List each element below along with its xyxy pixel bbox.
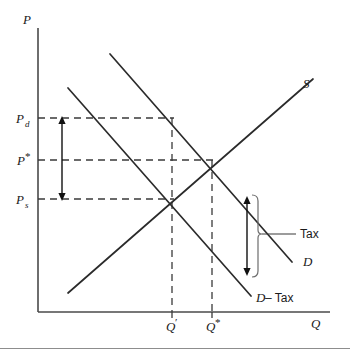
- y-tick-label-pd: P d: [15, 111, 30, 129]
- y-tick-label-pstar-star: *: [25, 150, 31, 162]
- figure-container: P Q P d P * P s Q ′ Q * S D: [0, 0, 350, 358]
- supply-demand-tax-chart: P Q P d P * P s Q ′ Q * S D: [0, 0, 350, 358]
- y-tick-label-pstar-base: P: [16, 153, 25, 168]
- y-tick-label-ps: P s: [15, 192, 29, 210]
- guide-lines-group: [38, 118, 213, 312]
- x-tick-label-qstar: Q *: [206, 316, 221, 334]
- tax-arrow-head-down: [243, 268, 250, 276]
- tax-wedge-arrow-head-down: [58, 193, 65, 201]
- demand-minus-tax-label: D – Tax: [255, 290, 293, 305]
- supply-curve[interactable]: [68, 79, 313, 293]
- x-tick-label-qstar-star: *: [215, 316, 221, 328]
- demand-minus-tax-label-rest: – Tax: [265, 291, 293, 305]
- tax-arrow-head-up: [243, 196, 250, 204]
- page-separator-rule: [0, 348, 350, 349]
- axis-ticks-group: [172, 312, 212, 318]
- x-tick-label-qprime-prime: ′: [175, 316, 177, 328]
- tax-wedge-arrow-left: [58, 116, 65, 201]
- y-axis-label: P: [22, 12, 31, 27]
- y-tick-label-pd-base: P: [15, 111, 24, 126]
- y-tick-label-pstar: P *: [16, 150, 31, 168]
- supply-curve-label: S: [303, 76, 310, 91]
- tax-wedge-arrow-head-up: [58, 116, 65, 124]
- y-tick-label-ps-base: P: [15, 192, 24, 207]
- tax-annotation-label: Tax: [300, 227, 319, 241]
- y-tick-label-ps-sub: s: [25, 200, 29, 210]
- tax-brace: [252, 195, 262, 277]
- x-axis-label: Q: [311, 316, 321, 331]
- x-tick-label-qprime: Q ′: [166, 316, 177, 334]
- curves-group: [68, 54, 313, 296]
- y-tick-label-pd-sub: d: [25, 119, 30, 129]
- demand-curve-label: D: [302, 254, 313, 269]
- axes-group: [38, 28, 330, 312]
- demand-minus-tax-curve[interactable]: [68, 88, 251, 296]
- demand-curve[interactable]: [110, 54, 292, 262]
